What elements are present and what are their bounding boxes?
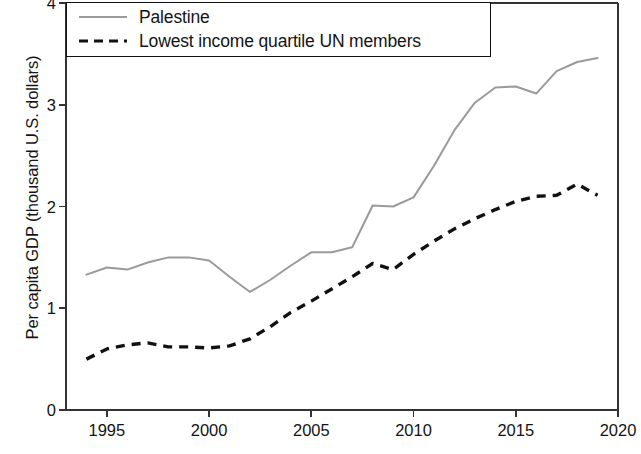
- series-line-lowest-quartile: [86, 184, 597, 359]
- legend-item-lowest-quartile: Lowest income quartile UN members: [77, 29, 421, 53]
- legend-label-lowest-quartile: Lowest income quartile UN members: [139, 31, 421, 52]
- plot-area: [0, 0, 641, 454]
- chart-legend: Palestine Lowest income quartile UN memb…: [66, 2, 491, 57]
- legend-key-dashed-line: [77, 34, 129, 48]
- legend-label-palestine: Palestine: [139, 7, 210, 28]
- series-line-palestine: [86, 58, 597, 292]
- legend-key-solid-line: [77, 10, 129, 24]
- legend-item-palestine: Palestine: [77, 5, 210, 29]
- axis-lines: [66, 3, 618, 410]
- axis-tick-marks: [59, 3, 618, 417]
- series-lines: [86, 58, 597, 359]
- chart-figure: Per capita GDP (thousand U.S. dollars) 0…: [0, 0, 641, 454]
